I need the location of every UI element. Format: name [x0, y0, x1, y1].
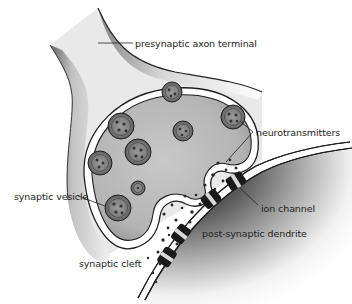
- label-ion-channel: ion channel: [261, 203, 315, 214]
- vesicle: [105, 195, 131, 221]
- label-synaptic-vesicle: synaptic vesicle: [14, 191, 88, 202]
- vesicle: [125, 139, 151, 165]
- vesicle: [162, 82, 182, 102]
- vesicle: [88, 151, 112, 175]
- vesicle: [131, 181, 145, 195]
- label-synaptic-cleft: synaptic cleft: [79, 258, 141, 269]
- synapse-diagram: presynaptic axon terminal neurotransmitt…: [0, 0, 352, 304]
- vesicle: [173, 121, 193, 141]
- vesicle: [108, 113, 134, 139]
- label-neurotransmitters: neurotransmitters: [256, 127, 340, 138]
- label-presynaptic-axon-terminal: presynaptic axon terminal: [135, 38, 257, 49]
- vesicle: [221, 105, 245, 129]
- label-post-synaptic-dendrite: post-synaptic dendrite: [202, 228, 307, 239]
